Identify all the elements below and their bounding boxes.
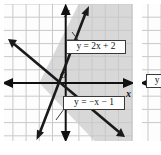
y-axis-label: y [65,6,69,17]
equation-label-partial: y [146,74,161,88]
equation-label-1: y = 2x + 2 [66,40,126,54]
origin-label: O [60,70,67,80]
figure-container: y x O y = 2x + 2 [0,0,161,155]
coordinate-graph: y x O [4,4,133,141]
graph-canvas [4,4,133,141]
secondary-graph-partial [142,4,161,141]
secondary-graph-canvas [142,4,161,141]
equation-label-2: y = −x − 1 [63,96,125,110]
grid-lines-2 [142,4,161,141]
x-axis-label: x [126,88,131,99]
